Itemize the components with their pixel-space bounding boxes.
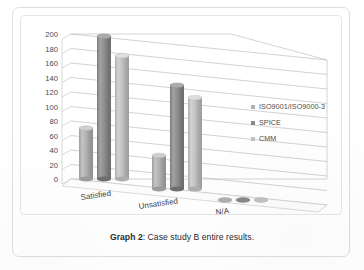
figure-caption-prefix: Graph 2 bbox=[110, 232, 143, 242]
bar-group-satisfied bbox=[79, 34, 129, 182]
axis-depth-edges bbox=[62, 34, 71, 184]
y-tick-200: 200 bbox=[45, 30, 58, 39]
bar-satisfied-iso9001[interactable] bbox=[79, 126, 93, 182]
x-label-na: N/A bbox=[215, 206, 230, 215]
y-tick-160: 160 bbox=[45, 59, 58, 68]
figure-caption-text: Case study B entire results. bbox=[148, 232, 254, 242]
legend-item-iso9001[interactable]: ISO9001/ISO9000-3 bbox=[251, 103, 364, 110]
y-tick-180: 180 bbox=[45, 45, 58, 54]
legend-label-spice: SPICE bbox=[259, 119, 281, 126]
chart-legend: ISO9001/ISO9000-3 SPICE CMM bbox=[251, 103, 364, 152]
x-label-unsatisfied: Unsatisfied bbox=[138, 197, 178, 211]
y-tick-140: 140 bbox=[45, 74, 58, 83]
y-tick-120: 120 bbox=[45, 88, 58, 97]
legend-item-spice[interactable]: SPICE bbox=[251, 119, 364, 126]
legend-swatch-icon-spice bbox=[251, 121, 255, 125]
bar-na-spice[interactable] bbox=[236, 198, 250, 203]
bar-group-na bbox=[218, 198, 268, 203]
y-axis-tick-labels: 200 180 160 140 120 100 80 60 40 20 0 bbox=[45, 30, 58, 184]
x-label-satisfied: Satisfied bbox=[80, 189, 112, 202]
figure-caption: Graph 2: Case study B entire results. bbox=[0, 232, 364, 242]
y-tick-0: 0 bbox=[54, 175, 58, 184]
bar-na-cmm[interactable] bbox=[254, 198, 268, 203]
bar-satisfied-cmm[interactable] bbox=[115, 53, 129, 181]
bar-group-unsatisfied bbox=[152, 83, 202, 192]
bar-unsatisfied-iso9001[interactable] bbox=[152, 153, 166, 191]
bar-na-iso9001[interactable] bbox=[218, 198, 232, 203]
bar-satisfied-spice[interactable] bbox=[97, 34, 111, 182]
y-tick-100: 100 bbox=[45, 103, 58, 112]
legend-label-iso9001: ISO9001/ISO9000-3 bbox=[259, 103, 325, 110]
y-tick-80: 80 bbox=[50, 117, 58, 126]
y-tick-20: 20 bbox=[50, 161, 58, 170]
legend-item-cmm[interactable]: CMM bbox=[251, 135, 364, 142]
figure-card: 200 180 160 140 120 100 80 60 40 20 0 bbox=[12, 7, 350, 257]
legend-swatch-icon-iso9001 bbox=[251, 105, 255, 109]
legend-swatch-icon-cmm bbox=[251, 137, 255, 141]
bar-unsatisfied-spice[interactable] bbox=[170, 83, 184, 192]
bar-unsatisfied-cmm[interactable] bbox=[188, 95, 202, 191]
y-tick-60: 60 bbox=[50, 132, 58, 141]
y-tick-40: 40 bbox=[50, 146, 58, 155]
legend-label-cmm: CMM bbox=[259, 135, 276, 142]
